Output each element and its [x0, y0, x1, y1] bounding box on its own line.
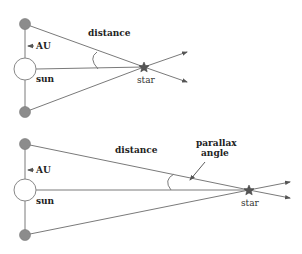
- star-icon: [139, 62, 149, 72]
- star-label: star: [137, 75, 156, 85]
- parallax-angle-arc: [93, 52, 98, 69]
- sight-line-lower: [25, 190, 249, 235]
- sun-circle: [14, 179, 36, 201]
- distance-label: distance: [88, 28, 131, 38]
- sun-star-baseline: [36, 67, 144, 69]
- au-label: AU: [35, 41, 51, 51]
- star-label: star: [241, 198, 260, 208]
- parallax-diagram-figure: distance AU sun star distance AU sun sta…: [0, 0, 302, 254]
- distance-label: distance: [115, 145, 158, 155]
- sight-line-upper-extension: [249, 190, 290, 198]
- sun-label: sun: [36, 196, 55, 206]
- sight-line-lower-extension: [144, 52, 187, 67]
- far-star-diagram: distance AU sun star parallax angle: [14, 138, 290, 241]
- earth-position-bottom: [20, 107, 31, 118]
- sight-line-lower-extension: [249, 182, 290, 190]
- au-label: AU: [35, 165, 51, 175]
- star-icon: [244, 185, 254, 195]
- near-star-diagram: distance AU sun star: [14, 19, 187, 118]
- earth-position-bottom: [20, 230, 31, 241]
- parallax-angle-arc: [168, 174, 174, 190]
- parallax-angle-label-line1: parallax: [196, 138, 237, 148]
- earth-position-top: [20, 19, 31, 30]
- earth-position-top: [20, 139, 31, 150]
- sun-label: sun: [36, 74, 55, 84]
- parallax-angle-label-line2: angle: [201, 148, 229, 158]
- sun-circle: [14, 58, 36, 80]
- parallax-pointer-arrow: [190, 162, 205, 180]
